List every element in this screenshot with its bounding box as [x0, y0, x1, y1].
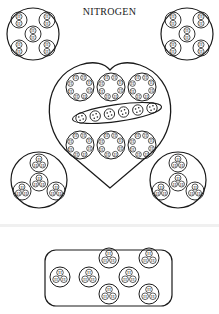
atom-label: H [150, 88, 153, 93]
atom-label: H [173, 182, 177, 187]
hydrogen-atom: H [198, 42, 204, 48]
hydrogen-atom: H [16, 42, 22, 48]
electron-dot [81, 115, 83, 117]
hydrogen-atom: H [104, 75, 110, 81]
hydrogen-atom: H [19, 184, 25, 190]
atom-label: H [83, 94, 86, 99]
atom-label: H [114, 94, 117, 99]
atom-label: H [37, 176, 41, 181]
atom-label: H [105, 133, 108, 138]
atom-label: H [176, 157, 180, 162]
hydrogen-atom: H [136, 152, 142, 158]
atom-label: H [119, 138, 122, 143]
ellipse-atom-circle [118, 107, 128, 117]
hydrogen-atom: H [130, 88, 136, 94]
atom-label: H [31, 28, 35, 33]
hydrogen-atom: H [150, 293, 157, 300]
atom-label: H [91, 277, 95, 282]
atom-label: H [199, 42, 203, 47]
atom-label: H [17, 191, 21, 196]
atom-ring: HHHHHHHH [128, 131, 156, 159]
atom-label: H [82, 133, 85, 138]
atom-cluster: HHH [139, 284, 159, 304]
hydrogen-atom: H [44, 14, 50, 20]
atom-cluster: HHH [119, 267, 139, 287]
molecule-pair: HH [11, 40, 27, 56]
ellipse-atom-circle [133, 105, 143, 115]
atom-label: H [145, 152, 148, 157]
hydrogen-atom: H [16, 190, 22, 196]
molecule-pair: HH [39, 12, 55, 28]
hydrogen-atom: H [57, 269, 64, 276]
atom-label: H [127, 270, 131, 275]
atom-ellipse [71, 98, 162, 127]
atom-label: H [106, 152, 109, 157]
atom-label: H [131, 277, 135, 282]
atom-label: H [180, 182, 184, 187]
bottom-left-molecule-group: HHHHHHHHHHHH [11, 152, 67, 208]
electron-dot [152, 105, 154, 107]
atom-ring: HHHHHHHH [66, 131, 94, 159]
atom-cluster: HHH [169, 154, 187, 172]
atom-label: H [114, 152, 117, 157]
atom-ring: HHHHHHHH [97, 131, 125, 159]
atom-cluster: HHH [79, 267, 99, 287]
hydrogen-atom: H [112, 151, 118, 157]
electron-dot [150, 109, 152, 111]
hydrogen-atom: H [81, 133, 87, 139]
atom-label: H [136, 75, 139, 80]
atom-label: H [119, 146, 122, 151]
atom-label: H [100, 139, 103, 144]
nitrogen-diagram: HHHHHHHHHH HHHHHHHHHH HHHHHHHHHHHHHHHHHH… [0, 0, 219, 314]
electron-dot [111, 114, 113, 116]
atom-label: H [147, 287, 151, 292]
atom-label: H [197, 191, 201, 196]
hydrogen-atom: H [33, 162, 39, 168]
atom-label: H [103, 294, 107, 299]
molecule-pair: HH [11, 12, 27, 28]
hydrogen-atom: H [148, 138, 154, 144]
hydrogen-atom: H [50, 190, 56, 196]
molecule-pair: HH [25, 26, 41, 42]
atom-label: H [106, 94, 109, 99]
atom-label: H [75, 152, 78, 157]
hydrogen-atom: H [73, 75, 79, 81]
hydrogen-atom: H [102, 293, 109, 300]
atom-label: H [62, 277, 66, 282]
hydrogen-atom: H [61, 276, 68, 283]
atom-label: H [185, 35, 189, 40]
hydrogen-atom: H [149, 146, 155, 152]
electron-dot [122, 113, 124, 115]
hydrogen-atom: H [143, 75, 149, 81]
hydrogen-atom: H [30, 28, 36, 34]
atom-cluster: HHH [47, 182, 65, 200]
hydrogen-atom: H [130, 276, 137, 283]
hydrogen-atom: H [198, 48, 204, 54]
ellipse-atom-circle [76, 113, 86, 123]
atom-cluster: HHH [30, 173, 48, 191]
hydrogen-atom: H [36, 175, 42, 181]
hydrogen-atom: H [68, 146, 74, 152]
hydrogen-atom: H [99, 88, 105, 94]
atom-label: H [147, 251, 151, 256]
atom-label: H [199, 14, 203, 19]
hydrogen-atom: H [105, 152, 111, 158]
hydrogen-atom: H [142, 257, 149, 264]
atom-label: H [150, 146, 153, 151]
atom-label: H [143, 294, 147, 299]
atom-label: H [111, 258, 115, 263]
atom-label: H [69, 81, 72, 86]
hydrogen-atom: H [130, 139, 136, 145]
atom-label: H [83, 152, 86, 157]
hydrogen-atom: H [23, 190, 29, 196]
hydrogen-atom: H [68, 139, 74, 145]
bottom-right-molecule-group: HHHHHHHHHHHH [150, 152, 206, 208]
hydrogen-atom: H [136, 94, 142, 100]
hydrogen-atom: H [122, 276, 129, 283]
hydrogen-atom: H [135, 75, 141, 81]
hydrogen-atom: H [117, 138, 123, 144]
atom-label: H [17, 42, 21, 47]
atom-label: H [31, 35, 35, 40]
top-left-molecule-group: HHHHHHHHHH [7, 8, 59, 60]
hydrogen-atom: H [172, 162, 178, 168]
